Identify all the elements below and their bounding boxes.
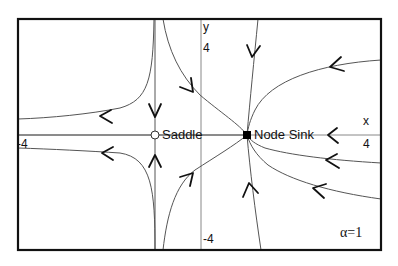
arrow-down-icon <box>247 45 260 57</box>
y-axis-label: y <box>203 20 209 34</box>
direction-arrows <box>100 45 344 198</box>
arrow-left-icon <box>326 154 339 168</box>
y-tick-max: 4 <box>203 41 210 55</box>
saddle-label: Saddle <box>162 127 202 142</box>
arrow-left-icon <box>102 147 113 160</box>
node-sink-label: Node Sink <box>254 127 314 142</box>
phase-portrait-diagram: Saddle Node Sink y 4 -4 x 4 -4 α=1 <box>0 0 398 266</box>
parameter-label: α=1 <box>340 225 362 240</box>
saddle-point-marker <box>151 131 159 139</box>
trajectory-upper-left <box>18 19 154 119</box>
arrow-up-icon <box>243 183 258 197</box>
y-tick-min: -4 <box>203 232 214 246</box>
trajectory-upper-center <box>163 19 247 135</box>
x-tick-max: 4 <box>363 137 370 151</box>
trajectory-lower-left <box>18 148 155 250</box>
trajectory-top-vertical <box>247 19 258 135</box>
trajectory-upper-right <box>247 60 381 135</box>
trajectory-bottom-vertical <box>247 135 261 250</box>
node-sink-marker <box>243 131 251 139</box>
arrow-left-icon <box>100 110 112 123</box>
x-axis-label: x <box>363 114 369 128</box>
labels: Saddle Node Sink y 4 -4 x 4 -4 α=1 <box>17 20 370 246</box>
